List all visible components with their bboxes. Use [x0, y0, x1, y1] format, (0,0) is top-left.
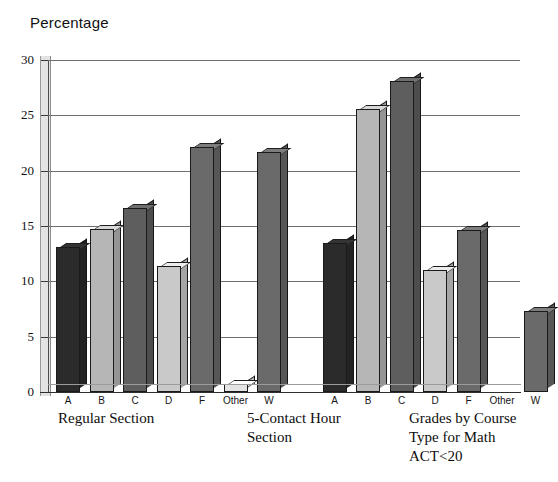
x-category-label: B [98, 395, 105, 406]
bar-side-face [114, 221, 121, 388]
bar [90, 229, 114, 392]
x-category-label: B [365, 395, 372, 406]
x-category-label: A [331, 395, 338, 406]
bar-side-face [380, 100, 387, 388]
y-tick-mark [41, 281, 48, 282]
bar-side-face [481, 222, 488, 388]
bar [190, 147, 214, 392]
bar [390, 81, 414, 392]
bar-front-face [157, 266, 181, 392]
bar-front-face [90, 229, 114, 392]
y-tick-label: 20 [21, 163, 34, 179]
gridline [48, 60, 520, 61]
y-tick-mark [41, 115, 48, 116]
bar [356, 109, 380, 392]
y-tick-mark [41, 171, 48, 172]
chart-title: Percentage [30, 14, 109, 31]
bar-side-face [147, 200, 154, 388]
bar-side-face [281, 143, 288, 388]
y-tick-label: 30 [21, 52, 34, 68]
bar [157, 266, 181, 392]
x-category-label: D [431, 395, 438, 406]
bar-side-face [214, 139, 221, 388]
x-category-label: W [264, 395, 273, 406]
bar [56, 247, 80, 392]
bar [524, 311, 548, 392]
x-category-label: Other [223, 395, 248, 406]
bar-side-face [347, 234, 354, 388]
x-category-label: D [165, 395, 172, 406]
y-tick-label: 25 [21, 107, 34, 123]
bar [423, 270, 447, 392]
group2-caption-line2: Section [247, 429, 292, 445]
bar-front-face [123, 208, 147, 392]
x-category-label: F [199, 395, 205, 406]
bar-side-face [447, 262, 454, 388]
y-tick-label: 10 [21, 273, 34, 289]
bar-front-face [423, 270, 447, 392]
bar [123, 208, 147, 392]
note-line3: ACT<20 [409, 448, 462, 464]
bar-side-face [80, 238, 87, 388]
bar-side-face [414, 72, 421, 388]
bar-front-face [390, 81, 414, 392]
baseline-depth-edge [48, 384, 521, 385]
note-line2: Type for Math [409, 429, 495, 445]
y-tick-label: 5 [28, 329, 35, 345]
chart-note: Grades by CourseType for MathACT<20 [409, 409, 516, 466]
y-tick-mark [41, 60, 48, 61]
gridline [48, 115, 520, 116]
y-tick-mark [41, 337, 48, 338]
group-caption-5-contact-hour-section: 5-Contact HourSection [247, 409, 341, 447]
bar-front-face [323, 243, 347, 392]
bar-front-face [457, 230, 481, 392]
bar-front-face [224, 384, 248, 392]
bar [323, 243, 347, 392]
group-caption-regular-section: Regular Section [58, 409, 154, 428]
bar-front-face [257, 152, 281, 392]
x-category-label: Other [489, 395, 514, 406]
note-line1: Grades by Course [409, 410, 516, 426]
bar-side-face [548, 303, 555, 388]
x-category-label: W [531, 395, 540, 406]
x-category-label: A [65, 395, 72, 406]
x-category-label: C [398, 395, 405, 406]
y-tick-mark [41, 226, 48, 227]
y-axis-tick-labels: 302520151050 [0, 0, 34, 482]
bar-side-face [181, 257, 188, 388]
plot-area [48, 60, 520, 392]
bar [224, 384, 248, 392]
bar-front-face [190, 147, 214, 392]
bar-front-face [356, 109, 380, 392]
group2-caption-line1: 5-Contact Hour [247, 410, 341, 426]
x-axis-baseline [40, 392, 521, 393]
bar-front-face [524, 311, 548, 392]
bar [257, 152, 281, 392]
bar-front-face [56, 247, 80, 392]
y-tick-label: 15 [21, 218, 34, 234]
y-tick-label: 0 [28, 384, 35, 400]
x-category-label: F [465, 395, 471, 406]
bar [457, 230, 481, 392]
x-category-label: C [131, 395, 138, 406]
